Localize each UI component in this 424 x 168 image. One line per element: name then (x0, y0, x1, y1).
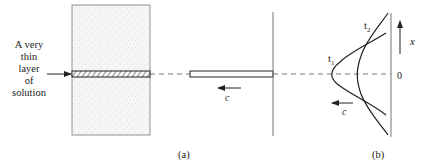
gel-column (72, 5, 150, 135)
axis-x-label: x (409, 36, 415, 47)
velocity-label-b: c (342, 106, 347, 117)
moving-zone-bar (190, 71, 273, 77)
diffusion-diagram: c (a) t1 t2 x 0 c (b) (0, 0, 424, 168)
velocity-label-a: c (225, 92, 230, 103)
curve-t1-label: t1 (328, 53, 335, 67)
thin-solution-layer (72, 71, 150, 77)
curve-t2-label: t2 (364, 20, 371, 34)
panel-b-label: (b) (372, 149, 385, 161)
panel-a: c (a) (47, 5, 391, 161)
panel-a-label: (a) (178, 149, 190, 161)
panel-b: t1 t2 x 0 c (b) (328, 13, 415, 161)
origin-label: 0 (397, 70, 402, 81)
